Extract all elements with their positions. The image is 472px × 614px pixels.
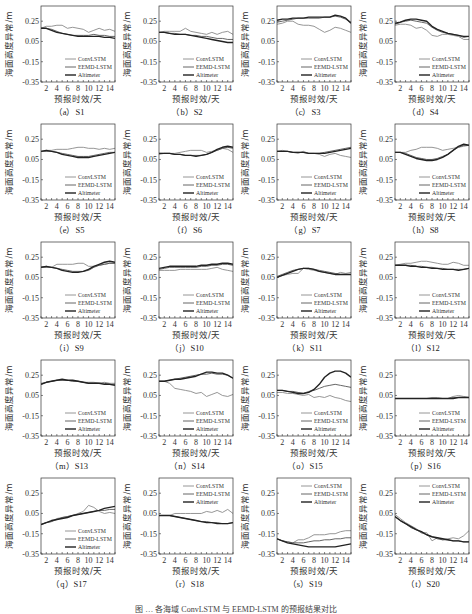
y-tick-label: -0.15 <box>376 294 393 303</box>
y-tick-label: 0.25 <box>25 17 39 26</box>
legend-label: EEMD-LSTM <box>78 536 112 542</box>
chart-panel: 海面高度异常/m0.250.05-0.15-0.352468101214预报时效… <box>354 470 472 588</box>
line-chart: 海面高度异常/m0.250.05-0.15-0.352468101214预报时效… <box>0 0 118 116</box>
y-axis-label: 海面高度异常/m <box>4 247 14 312</box>
x-tick-label: 10 <box>85 438 93 447</box>
x-tick-label: 6 <box>183 556 187 565</box>
series-altimeter <box>277 371 351 393</box>
y-tick-label: 0.25 <box>25 135 39 144</box>
y-tick-label: 0.25 <box>143 17 157 26</box>
y-tick-label: -0.15 <box>140 294 157 303</box>
x-tick-label: 8 <box>430 556 434 565</box>
y-tick-label: 0.25 <box>25 253 39 262</box>
x-tick-label: 4 <box>173 320 177 329</box>
x-tick-label: 2 <box>280 202 284 211</box>
x-tick-label: 4 <box>173 438 177 447</box>
x-tick-label: 12 <box>213 556 221 565</box>
y-tick-label: -0.15 <box>140 412 157 421</box>
y-tick-label: -0.35 <box>376 78 393 87</box>
series-altimeter <box>159 32 233 42</box>
y-tick-label: 0.25 <box>143 489 157 498</box>
x-tick-label: 2 <box>162 84 166 93</box>
series-convlstm <box>159 509 233 515</box>
line-chart: 海面高度异常/m0.250.05-0.15-0.352468101214预报时效… <box>0 234 118 352</box>
x-tick-label: 14 <box>106 202 114 211</box>
x-tick-label: 2 <box>280 84 284 93</box>
line-chart: 海面高度异常/m0.250.05-0.15-0.352468101214预报时效… <box>354 470 472 588</box>
y-tick-label: -0.35 <box>22 432 39 441</box>
legend-label: ConvLSTM <box>78 56 106 62</box>
legend-label: Altimeter <box>432 426 454 432</box>
x-tick-label: 8 <box>194 320 198 329</box>
x-tick-label: 2 <box>398 84 402 93</box>
x-tick-label: 10 <box>203 202 211 211</box>
y-tick-label: 0.05 <box>261 391 275 400</box>
y-tick-label: -0.35 <box>22 550 39 559</box>
x-tick-label: 8 <box>430 320 434 329</box>
x-axis-label: 预报时效/天 <box>408 330 456 340</box>
y-axis-label: 海面高度异常/m <box>4 11 14 76</box>
x-tick-label: 4 <box>291 556 295 565</box>
legend-label: ConvLSTM <box>196 483 224 489</box>
x-axis-label: 预报时效/天 <box>290 212 338 222</box>
x-tick-label: 14 <box>342 84 350 93</box>
y-axis-label: 海面高度异常/m <box>4 483 14 548</box>
x-tick-label: 12 <box>449 556 457 565</box>
x-tick-label: 10 <box>203 556 211 565</box>
y-tick-label: 0.05 <box>143 509 157 518</box>
x-tick-label: 2 <box>398 556 402 565</box>
chart-panel: 海面高度异常/m0.250.05-0.15-0.352468101214预报时效… <box>236 0 354 116</box>
chart-panel: 海面高度异常/m0.250.05-0.15-0.352468101214预报时效… <box>354 116 472 234</box>
y-tick-label: 0.05 <box>379 37 393 46</box>
legend-label: EEMD-LSTM <box>314 182 348 188</box>
legend-label: ConvLSTM <box>432 174 460 180</box>
legend-label: EEMD-LSTM <box>196 491 230 497</box>
line-chart: 海面高度异常/m0.250.05-0.15-0.352468101214预报时效… <box>0 470 118 588</box>
x-axis-label: 预报时效/天 <box>54 212 102 222</box>
series-altimeter <box>41 506 115 524</box>
x-axis-label: 预报时效/天 <box>54 330 102 340</box>
y-tick-label: -0.15 <box>22 412 39 421</box>
y-axis-label: 海面高度异常/m <box>4 365 14 430</box>
y-tick-label: -0.15 <box>258 412 275 421</box>
y-tick-label: -0.35 <box>258 196 275 205</box>
x-tick-label: 12 <box>95 320 103 329</box>
x-tick-label: 6 <box>419 438 423 447</box>
x-tick-label: 8 <box>194 438 198 447</box>
x-tick-label: 6 <box>301 320 305 329</box>
x-tick-label: 14 <box>224 438 232 447</box>
x-tick-label: 2 <box>398 438 402 447</box>
x-axis-label: 预报时效/天 <box>172 94 220 104</box>
line-chart: 海面高度异常/m0.250.05-0.15-0.352468101214预报时效… <box>354 116 472 234</box>
x-tick-label: 12 <box>95 202 103 211</box>
legend-label: EEMD-LSTM <box>78 182 112 188</box>
x-tick-label: 4 <box>409 438 413 447</box>
x-tick-label: 14 <box>224 84 232 93</box>
x-tick-label: 14 <box>224 202 232 211</box>
x-tick-label: 2 <box>162 556 166 565</box>
y-tick-label: 0.25 <box>379 135 393 144</box>
y-axis-label: 海面高度异常/m <box>240 129 250 194</box>
y-tick-label: -0.35 <box>258 78 275 87</box>
legend-label: ConvLSTM <box>78 292 106 298</box>
legend-label: Altimeter <box>78 72 100 78</box>
legend-label: ConvLSTM <box>196 174 224 180</box>
x-tick-label: 4 <box>409 84 413 93</box>
y-tick-label: -0.15 <box>376 176 393 185</box>
y-tick-label: -0.35 <box>376 432 393 441</box>
chart-panel: 海面高度异常/m0.250.05-0.15-0.352468101214预报时效… <box>0 470 118 588</box>
x-tick-label: 2 <box>44 438 48 447</box>
y-tick-label: -0.35 <box>376 550 393 559</box>
y-tick-label: 0.25 <box>143 253 157 262</box>
x-axis-label: 预报时效/天 <box>290 566 338 576</box>
x-tick-label: 10 <box>85 84 93 93</box>
y-axis-label: 海面高度异常/m <box>122 483 132 548</box>
y-tick-label: -0.35 <box>22 78 39 87</box>
x-tick-label: 12 <box>95 84 103 93</box>
y-axis-label: 海面高度异常/m <box>358 11 368 76</box>
y-tick-label: -0.15 <box>140 530 157 539</box>
x-tick-label: 8 <box>194 84 198 93</box>
legend-label: Altimeter <box>314 72 336 78</box>
legend-label: Altimeter <box>78 190 100 196</box>
series-altimeter <box>159 146 233 156</box>
